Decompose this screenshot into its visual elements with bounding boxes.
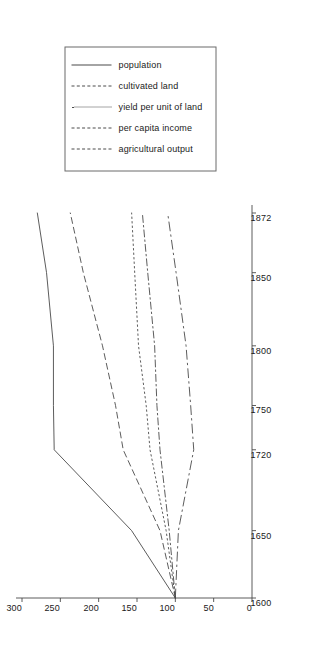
- series-line-population: [37, 213, 175, 598]
- legend-item-cultivated-land: cultivated land: [72, 75, 208, 96]
- y-tick-label: 50: [203, 603, 213, 613]
- rotated-figure-container: 1600165017201750180018501872 05010015020…: [0, 0, 318, 645]
- legend-item-label: per capita income: [119, 122, 193, 132]
- line-chart-figure: 1600165017201750180018501872 05010015020…: [0, 0, 318, 645]
- axis-lines: [16, 205, 252, 598]
- legend-item-agricultural-output: agricultural output: [72, 138, 208, 159]
- series-line-agricultural-output: [168, 213, 194, 598]
- x-tick-label: 1650: [251, 531, 272, 541]
- legend-item-yield-per-unit-of-land: yield per unit of land: [72, 96, 208, 117]
- legend-line-swatch: [72, 101, 112, 111]
- series-line-cultivated-land: [70, 213, 175, 598]
- legend-line-swatch: [72, 143, 112, 153]
- legend-item-label: population: [119, 59, 162, 69]
- y-tick-label: 200: [83, 603, 99, 613]
- y-axis-ticks: [22, 598, 252, 602]
- y-tick-label: 100: [160, 603, 176, 613]
- legend-item-label: cultivated land: [119, 80, 179, 90]
- y-tick-label: 150: [121, 603, 137, 613]
- legend-item-per-capita-income: per capita income: [72, 117, 208, 138]
- chart-legend: populationcultivated landyield per unit …: [65, 47, 217, 172]
- legend-line-swatch: [72, 80, 112, 90]
- legend-item-label: agricultural output: [119, 143, 193, 153]
- legend-line-swatch: [72, 122, 112, 132]
- x-tick-label: 1872: [251, 213, 272, 223]
- legend-line-swatch: [72, 59, 112, 69]
- legend-item-population: population: [72, 54, 208, 75]
- x-tick-label: 1750: [251, 406, 272, 416]
- x-tick-label: 1600: [251, 598, 272, 608]
- legend-item-label: yield per unit of land: [119, 101, 203, 111]
- series-line-per-capita-income: [142, 213, 175, 598]
- y-tick-label: 250: [45, 603, 61, 613]
- x-tick-label: 1850: [251, 273, 272, 283]
- y-tick-label: 300: [6, 603, 22, 613]
- y-tick-label: 0: [247, 603, 252, 613]
- x-tick-label: 1720: [251, 450, 272, 460]
- x-tick-label: 1800: [251, 346, 272, 356]
